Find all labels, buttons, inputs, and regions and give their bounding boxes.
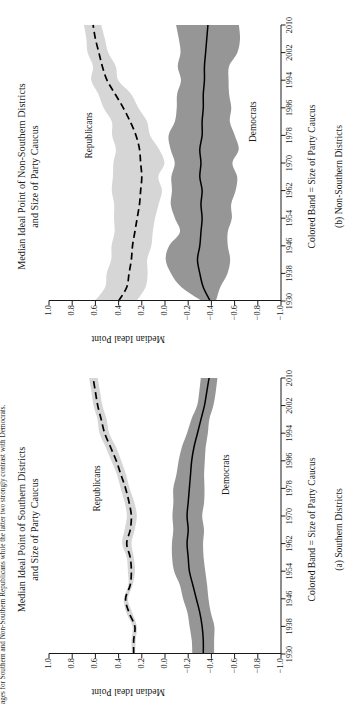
- y-tick-label: −1.0: [277, 305, 285, 320]
- panel-container: Median Ideal Point of Southern Districts…: [9, 0, 361, 706]
- y-tick-label: −1.0: [277, 658, 285, 673]
- axis-spines: [49, 25, 281, 301]
- y-tick-label: −0.4: [207, 305, 215, 320]
- rotated-figure-wrapper: ages for Southern and Non-Southern Repub…: [0, 0, 364, 706]
- x-tick-label: 1962: [286, 182, 294, 198]
- panel-b-band-note: Colored Band = Size of Party Caucus: [306, 0, 317, 353]
- x-tick-label: 1954: [286, 563, 294, 579]
- y-tick-label: −0.6: [230, 658, 238, 673]
- y-tick-label: −0.4: [207, 658, 215, 673]
- panel-b-title-line2: and Size of Party Caucus: [29, 125, 40, 227]
- y-tick-label: −0.8: [254, 658, 262, 673]
- y-tick-label: 0.4: [114, 658, 122, 668]
- x-tick-label: 1962: [286, 535, 294, 551]
- x-tick-label: 1946: [286, 591, 294, 607]
- y-tick-label: 0.0: [161, 305, 169, 315]
- x-tick-label: 2002: [286, 44, 294, 60]
- band-republicans: [84, 25, 164, 301]
- y-tick-label: −0.8: [254, 305, 262, 320]
- y-tick-label: 0.2: [138, 305, 146, 315]
- x-tick-label: 2010: [286, 370, 294, 386]
- x-tick-label: 2002: [286, 397, 294, 413]
- x-tick-label: 1970: [286, 155, 294, 171]
- y-tick-label: 0.6: [91, 305, 99, 315]
- panel-b-plot-area: 1.00.80.60.40.20.0−0.2−0.4−0.6−0.8−1.019…: [49, 25, 281, 301]
- x-tick-label: 1978: [286, 480, 294, 496]
- x-tick-label: 1930: [286, 293, 294, 309]
- x-tick-label: 1994: [286, 72, 294, 88]
- x-tick-label: 1970: [286, 508, 294, 524]
- x-tick-label: 1938: [286, 265, 294, 281]
- band-democrats: [172, 378, 218, 654]
- x-tick-label: 1938: [286, 618, 294, 634]
- x-tick-label: 1954: [286, 210, 294, 226]
- panel-a-title-line1: Median Ideal Point of Southern Districts: [16, 447, 27, 613]
- y-tick-label: 0.0: [161, 658, 169, 668]
- chart-canvas: [49, 24, 282, 301]
- series-label-republicans: Republicans: [84, 112, 94, 158]
- x-tick-label: 1946: [286, 238, 294, 254]
- y-tick-label: −0.2: [184, 658, 192, 673]
- x-tick-label: 1986: [286, 100, 294, 116]
- band-democrats: [166, 25, 240, 301]
- x-tick-label: 2010: [286, 17, 294, 33]
- y-tick-label: 0.6: [91, 658, 99, 668]
- panel-b-y-axis-title: Median Ideal Point: [91, 334, 165, 345]
- series-label-democrats: Democrats: [221, 454, 231, 495]
- panel-b-title: Median Ideal Point of Non-Southern Distr…: [15, 0, 41, 353]
- panel-southern-districts: Median Ideal Point of Southern Districts…: [9, 353, 361, 706]
- panel-b-subcaption: (b) Non-Southern Districts: [333, 0, 344, 353]
- series-label-democrats: Democrats: [248, 101, 258, 142]
- figure: ages for Southern and Non-Southern Repub…: [0, 0, 364, 706]
- figure-top-caption: ages for Southern and Non-Southern Repub…: [0, 0, 8, 706]
- x-tick-label: 1986: [286, 453, 294, 469]
- panel-a-title: Median Ideal Point of Southern Districts…: [15, 353, 41, 706]
- y-tick-label: 0.2: [138, 658, 146, 668]
- y-tick-label: 1.0: [45, 658, 53, 668]
- panel-b-title-line1: Median Ideal Point of Non-Southern Distr…: [16, 83, 27, 269]
- y-tick-label: 0.4: [114, 305, 122, 315]
- panel-a-subcaption: (a) Southern Districts: [333, 353, 344, 706]
- panel-a-plot-area: 1.00.80.60.40.20.0−0.2−0.4−0.6−0.8−1.019…: [49, 378, 281, 654]
- panel-a-band-note: Colored Band = Size of Party Caucus: [306, 353, 317, 706]
- x-tick-label: 1930: [286, 646, 294, 662]
- y-tick-label: 0.8: [68, 658, 76, 668]
- panel-a-title-line2: and Size of Party Caucus: [29, 478, 40, 580]
- axis-spines: [49, 378, 281, 654]
- y-tick-label: 1.0: [45, 305, 53, 315]
- y-tick-label: 0.8: [68, 305, 76, 315]
- x-tick-label: 1978: [286, 127, 294, 143]
- y-tick-label: −0.6: [230, 305, 238, 320]
- panel-non-southern-districts: Median Ideal Point of Non-Southern Distr…: [9, 0, 361, 353]
- band-republicans: [89, 378, 137, 654]
- x-tick-label: 1994: [286, 425, 294, 441]
- panel-a-y-axis-title: Median Ideal Point: [91, 687, 165, 698]
- y-tick-label: −0.2: [184, 305, 192, 320]
- series-label-republicans: Republicans: [92, 465, 102, 511]
- chart-canvas: [49, 377, 282, 654]
